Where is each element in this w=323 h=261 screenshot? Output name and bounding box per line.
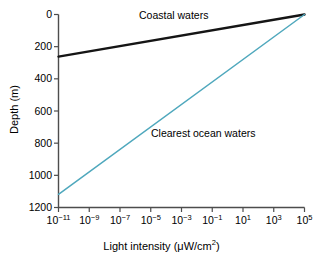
series-label-clearest-ocean-waters: Clearest ocean waters: [151, 128, 255, 139]
x-tick-label-1e5: 105: [285, 215, 323, 226]
ticks-group: [54, 15, 305, 213]
y-tick-label-0: 0: [18, 9, 52, 20]
axis-spine: [59, 15, 305, 208]
series-label-coastal-waters: Coastal waters: [139, 10, 208, 21]
y-tick-label-400: 400: [18, 73, 52, 84]
y-tick-label-200: 200: [18, 41, 52, 52]
x-axis-title: Light intensity (μW/cm2): [0, 241, 323, 252]
axes-group: [59, 15, 305, 208]
y-tick-label-600: 600: [18, 106, 52, 117]
y-tick-label-1000: 1000: [18, 170, 52, 181]
chart-figure: 020040060080010001200 10−1110−910−710−51…: [0, 0, 323, 261]
y-axis-title: Depth (m): [9, 70, 20, 150]
y-tick-label-1200: 1200: [18, 202, 52, 213]
series-line-clearest-ocean-waters: [59, 15, 305, 195]
data-series-group: [59, 15, 305, 195]
y-tick-label-800: 800: [18, 138, 52, 149]
